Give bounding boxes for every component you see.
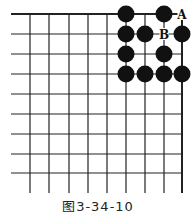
black-stone-icon — [156, 46, 173, 63]
point-label-a: A — [176, 8, 187, 22]
black-stone-icon — [118, 46, 135, 63]
black-stone-icon — [156, 6, 173, 23]
black-stone-icon — [118, 6, 135, 23]
black-stone-icon — [137, 26, 154, 43]
figure-caption: 图3-34-10 — [0, 200, 196, 212]
go-board-diagram: AB — [0, 0, 196, 200]
black-stone-icon — [137, 66, 154, 83]
black-stone-icon — [118, 26, 135, 43]
black-stone-icon — [118, 66, 135, 83]
point-label-b: B — [159, 28, 169, 42]
black-stone-icon — [174, 26, 191, 43]
black-stone-icon — [156, 66, 173, 83]
board-grid — [11, 14, 182, 193]
black-stone-icon — [174, 66, 191, 83]
